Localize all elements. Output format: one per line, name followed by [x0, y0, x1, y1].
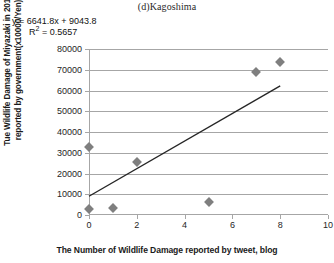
x-tick-mark: [185, 215, 186, 219]
y-tick-label: 70000: [57, 65, 82, 75]
x-tick-label: 4: [182, 220, 187, 230]
r-squared-number: = 0.5657: [39, 27, 77, 37]
y-tick-label: 60000: [57, 86, 82, 96]
y-axis-title-line-2: reported by government(x10000/Yen): [14, 0, 25, 154]
x-tick-label: 6: [230, 220, 235, 230]
y-tick-label: 40000: [57, 127, 82, 137]
y-tick-label: 10000: [57, 189, 82, 199]
x-tick-label: 8: [278, 220, 283, 230]
plot-area: 0100002000030000400005000060000700008000…: [89, 49, 328, 215]
y-tick-label: 20000: [57, 169, 82, 179]
y-tick-label: 50000: [57, 106, 82, 116]
x-tick-label: 2: [134, 220, 139, 230]
y-tick-label: 30000: [57, 148, 82, 158]
y-axis-title-line-1: Tue Wildlife Damage of Miyazaki in 2013: [3, 0, 14, 154]
x-tick-mark: [232, 215, 233, 219]
x-tick-mark: [89, 215, 90, 219]
x-tick-mark: [280, 215, 281, 219]
scatter-chart: (d)Kagoshima y = 6641.8x + 9043.8 R2 = 0…: [0, 0, 334, 263]
y-axis-title: Tue Wildlife Damage of Miyazaki in 2013 …: [3, 0, 29, 154]
y-tick-label: 80000: [57, 44, 82, 54]
x-tick-mark: [328, 215, 329, 219]
x-tick-label: 0: [86, 220, 91, 230]
x-tick-mark: [137, 215, 138, 219]
trendline: [89, 49, 328, 215]
x-axis-title: The Number of Wildlife Damage reported b…: [0, 245, 334, 255]
y-tick-label: 0: [77, 210, 82, 220]
chart-title: (d)Kagoshima: [0, 1, 334, 12]
x-tick-label: 10: [323, 220, 333, 230]
